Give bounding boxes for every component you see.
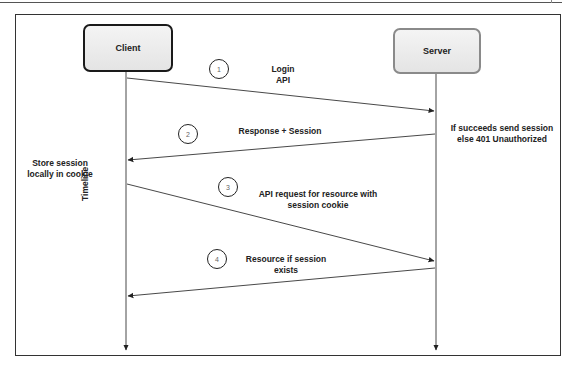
participant-client: Client [83, 24, 173, 72]
message-label-3-line1: API request for resource with [248, 189, 388, 200]
message-label-4-line2: exists [236, 265, 336, 276]
step-number-3: 3 [226, 184, 230, 191]
message-label-3-line2: session cookie [248, 200, 388, 211]
message-label-2: Response + Session [225, 126, 335, 137]
step-circle-1: 1 [209, 59, 229, 79]
message-label-1-line1: Login [263, 64, 303, 75]
step-number-4: 4 [215, 256, 219, 263]
step-number-1: 1 [217, 66, 221, 73]
participant-server: Server [393, 28, 481, 74]
message-label-4: Resource if session exists [236, 254, 336, 276]
participant-client-label: Client [115, 43, 140, 53]
message-label-1: Login API [263, 64, 303, 86]
message-arrow-2 [128, 134, 435, 160]
step-number-2: 2 [186, 131, 190, 138]
step-circle-2: 2 [178, 124, 198, 144]
server-note-line2: else 401 Unauthorized [446, 134, 558, 145]
step-circle-4: 4 [207, 249, 227, 269]
server-note: If succeeds send session else 401 Unauth… [446, 123, 558, 145]
message-label-4-line1: Resource if session [236, 254, 336, 265]
server-note-line1: If succeeds send session [446, 123, 558, 134]
message-label-2-line1: Response + Session [225, 126, 335, 137]
step-circle-3: 3 [218, 177, 238, 197]
message-label-1-line2: API [263, 75, 303, 86]
participant-server-label: Server [423, 46, 451, 56]
timeline-label: Timeline [80, 167, 90, 201]
message-label-3: API request for resource with session co… [248, 189, 388, 211]
